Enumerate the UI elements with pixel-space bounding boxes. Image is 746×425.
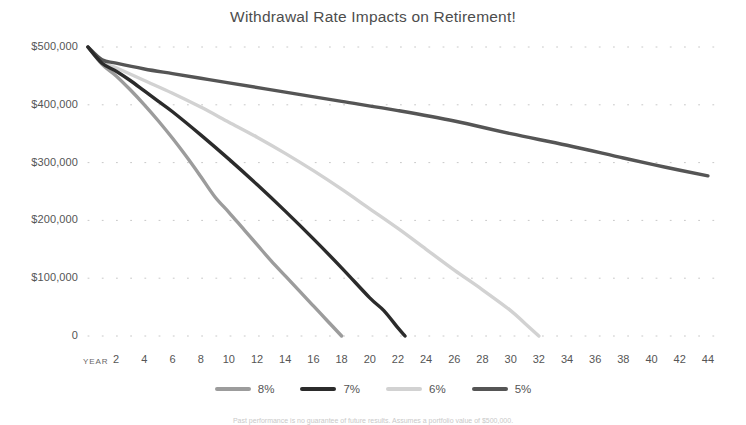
chart-footnote: Past performance is no guarantee of futu…: [0, 417, 746, 425]
x-axis-title: YEAR: [83, 357, 108, 366]
legend-swatch-icon: [215, 387, 251, 391]
legend-item[interactable]: 6%: [386, 383, 446, 395]
legend-item[interactable]: 5%: [472, 383, 532, 395]
y-axis-tick-label: $100,000: [0, 271, 78, 283]
legend-label: 5%: [515, 383, 532, 395]
legend-item[interactable]: 8%: [215, 383, 275, 395]
series-line-5pct: [88, 47, 708, 176]
y-axis-tick-label: $200,000: [0, 213, 78, 225]
legend-label: 7%: [343, 383, 360, 395]
series-line-6pct: [88, 47, 539, 336]
y-axis-tick-label: $300,000: [0, 156, 78, 168]
y-axis-tick-label: 0: [0, 329, 78, 341]
legend-item[interactable]: 7%: [300, 383, 360, 395]
series-line-7pct: [88, 47, 405, 336]
series-line-8pct: [88, 47, 342, 336]
legend-swatch-icon: [386, 387, 422, 391]
x-axis-tick-label: 44: [688, 353, 728, 365]
legend-label: 8%: [258, 383, 275, 395]
chart-container: Withdrawal Rate Impacts on Retirement! $…: [0, 0, 746, 425]
y-axis-tick-label: $500,000: [0, 40, 78, 52]
legend-label: 6%: [429, 383, 446, 395]
y-axis-tick-label: $400,000: [0, 98, 78, 110]
legend-swatch-icon: [300, 387, 336, 391]
chart-legend: 8%7%6%5%: [0, 383, 746, 395]
legend-swatch-icon: [472, 387, 508, 391]
